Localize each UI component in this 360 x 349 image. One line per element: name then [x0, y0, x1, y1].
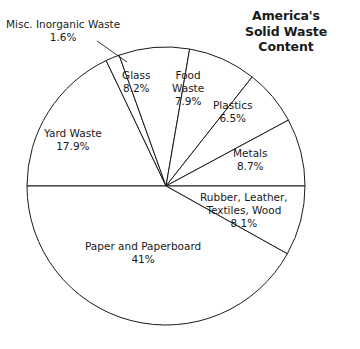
- slice-label-paper-and-paperboard: Paper and Paperboard 41%: [85, 240, 201, 266]
- chart-title-line-2: Solid Waste: [245, 24, 327, 39]
- slice-label-glass-value: 8.2%: [122, 82, 150, 95]
- slice-label-misc-inorganic-waste: Misc. Inorganic Waste 1.6%: [6, 18, 120, 44]
- slice-label-plastics-name: Plastics: [213, 99, 252, 112]
- slice-label-yard-waste-value: 17.9%: [44, 140, 102, 153]
- chart-title: America's Solid Waste Content: [220, 8, 352, 55]
- pie-chart: America's Solid Waste Content Misc. Inor…: [0, 0, 360, 349]
- slice-label-metals-name: Metals: [233, 147, 267, 160]
- slice-label-food-waste-name-line-2: Waste: [172, 82, 204, 95]
- slice-label-plastics-value: 6.5%: [213, 112, 252, 125]
- slice-label-metals-value: 8.7%: [233, 160, 267, 173]
- slice-label-glass: Glass 8.2%: [122, 69, 150, 95]
- chart-title-line-3: Content: [258, 39, 313, 54]
- slice-label-paper-and-paperboard-name: Paper and Paperboard: [85, 240, 201, 253]
- slice-label-rubber-name-line-1: Rubber, Leather,: [200, 191, 288, 204]
- pie-slices: [27, 47, 305, 325]
- chart-title-line-1: America's: [252, 8, 320, 23]
- slice-label-glass-name: Glass: [122, 69, 150, 82]
- slice-label-food-waste-name-line-1: Food: [172, 69, 204, 82]
- slice-label-rubber-leather-textiles-wood: Rubber, Leather, Textiles, Wood 8.1%: [200, 191, 288, 230]
- slice-label-plastics: Plastics 6.5%: [213, 99, 252, 125]
- slice-label-rubber-name-line-2: Textiles, Wood: [200, 204, 288, 217]
- slice-label-paper-and-paperboard-value: 41%: [85, 253, 201, 266]
- slice-label-yard-waste: Yard Waste 17.9%: [44, 127, 102, 153]
- slice-label-misc-inorganic-waste-name: Misc. Inorganic Waste: [6, 18, 120, 31]
- slice-label-metals: Metals 8.7%: [233, 147, 267, 173]
- slice-label-food-waste: Food Waste 7.9%: [172, 69, 204, 108]
- slice-label-yard-waste-name: Yard Waste: [44, 127, 102, 140]
- slice-label-misc-inorganic-waste-value: 1.6%: [6, 31, 120, 44]
- slice-label-rubber-value: 8.1%: [200, 217, 288, 230]
- slice-label-food-waste-value: 7.9%: [172, 95, 204, 108]
